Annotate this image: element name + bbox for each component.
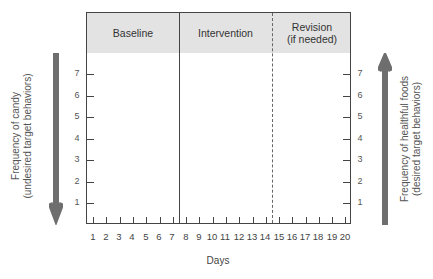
y-label-left-6: 6	[72, 90, 82, 100]
x-label-18: 18	[311, 231, 325, 242]
x-tick-17	[306, 217, 307, 223]
x-tick-12	[239, 217, 240, 223]
y-tick-right-2	[343, 182, 350, 183]
y-label-left-5: 5	[72, 111, 82, 121]
x-label-15: 15	[272, 231, 286, 242]
y-tick-right-4	[343, 139, 350, 140]
x-label-14: 14	[258, 231, 272, 242]
x-label-5: 5	[139, 231, 153, 242]
x-label-8: 8	[179, 231, 193, 242]
y-label-left-1: 1	[72, 197, 82, 207]
x-tick-18	[319, 217, 320, 223]
y-tick-left-6	[87, 96, 94, 97]
y-label-right-6: 6	[355, 90, 365, 100]
y-tick-right-1	[343, 203, 350, 204]
intervention-label: Intervention	[198, 27, 253, 39]
x-tick-13	[253, 217, 254, 223]
y-label-left-2: 2	[72, 176, 82, 186]
x-label-13: 13	[245, 231, 259, 242]
y-label-right-4: 4	[355, 133, 365, 143]
phase-label-baseline: Baseline	[87, 13, 179, 53]
x-label-1: 1	[86, 231, 100, 242]
phase-label-intervention: Intervention	[179, 13, 272, 53]
y-tick-right-3	[343, 160, 350, 161]
x-tick-14	[266, 217, 267, 223]
revision-label-line1: Revision	[292, 21, 332, 33]
x-label-16: 16	[285, 231, 299, 242]
plot-area: Baseline Intervention Revision (if neede…	[86, 12, 351, 224]
x-label-3: 3	[112, 231, 126, 242]
baseline-label: Baseline	[113, 27, 153, 39]
x-tick-6	[160, 217, 161, 223]
x-label-7: 7	[165, 231, 179, 242]
phase-label-revision: Revision (if needed)	[273, 13, 351, 53]
y-label-right-7: 7	[355, 68, 365, 78]
x-tick-5	[146, 217, 147, 223]
y-tick-left-2	[87, 182, 94, 183]
x-label-17: 17	[298, 231, 312, 242]
x-tick-3	[120, 217, 121, 223]
right-y-axis-label: Frequency of healthful foods (desired ta…	[399, 54, 425, 224]
x-label-9: 9	[192, 231, 206, 242]
x-tick-8	[186, 217, 187, 223]
left-arrow-down-icon	[49, 53, 63, 225]
y-tick-right-5	[343, 117, 350, 118]
right-y-axis-label-line2: (desired target behaviors)	[411, 54, 423, 224]
y-label-left-4: 4	[72, 133, 82, 143]
revision-label-line2: (if needed)	[287, 33, 337, 45]
y-tick-left-1	[87, 203, 94, 204]
x-tick-19	[332, 217, 333, 223]
x-tick-11	[226, 217, 227, 223]
x-label-2: 2	[99, 231, 113, 242]
left-y-axis-label: Frequency of candy (undesired target beh…	[10, 51, 36, 221]
x-tick-15	[279, 217, 280, 223]
phase-divider-dashed	[272, 13, 273, 223]
x-tick-4	[133, 217, 134, 223]
phase-divider-solid	[179, 13, 180, 223]
x-tick-7	[173, 217, 174, 223]
x-tick-10	[213, 217, 214, 223]
y-tick-left-3	[87, 160, 94, 161]
y-label-right-5: 5	[355, 111, 365, 121]
x-label-6: 6	[152, 231, 166, 242]
x-axis-title: Days	[198, 255, 238, 266]
x-label-10: 10	[205, 231, 219, 242]
x-tick-20	[345, 217, 346, 223]
x-tick-1	[93, 217, 94, 223]
right-arrow-up-icon	[378, 53, 392, 225]
x-label-11: 11	[218, 231, 232, 242]
y-tick-right-6	[343, 96, 350, 97]
x-tick-9	[199, 217, 200, 223]
y-tick-left-5	[87, 117, 94, 118]
x-tick-2	[106, 217, 107, 223]
y-tick-right-7	[343, 74, 350, 75]
y-label-right-1: 1	[355, 197, 365, 207]
y-tick-left-7	[87, 74, 94, 75]
y-label-left-3: 3	[72, 154, 82, 164]
left-y-axis-label-line1: Frequency of candy	[10, 51, 22, 221]
left-y-axis-label-line2: (undesired target behaviors)	[22, 51, 34, 221]
y-label-right-2: 2	[355, 176, 365, 186]
y-label-left-7: 7	[72, 68, 82, 78]
x-label-19: 19	[325, 231, 339, 242]
right-y-axis-label-line1: Frequency of healthful foods	[399, 54, 411, 224]
x-label-12: 12	[232, 231, 246, 242]
x-label-4: 4	[125, 231, 139, 242]
x-label-20: 20	[338, 231, 352, 242]
y-tick-left-4	[87, 139, 94, 140]
x-tick-16	[292, 217, 293, 223]
y-label-right-3: 3	[355, 154, 365, 164]
